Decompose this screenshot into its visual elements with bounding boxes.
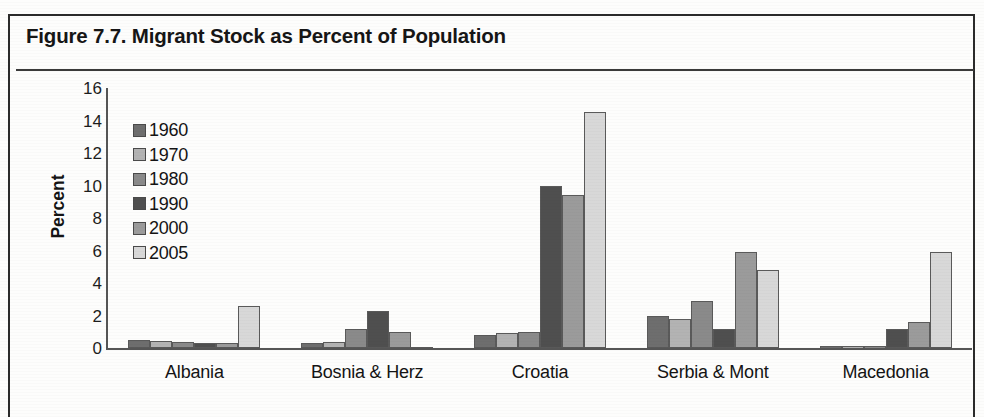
chart-plot-area: Percent 1614121086420 196019701980199020… (0, 0, 984, 417)
bar-2005-serbia-mont (757, 270, 779, 348)
y-axis-tick-8: 8 (68, 210, 102, 227)
y-axis-tick-16: 16 (68, 80, 102, 97)
bar-2005-croatia (584, 112, 606, 348)
bar-1980-macedonia (864, 346, 886, 348)
x-axis-label-macedonia: Macedonia (799, 362, 972, 383)
y-axis-tick-4: 4 (68, 275, 102, 292)
bar-2000-albania (216, 343, 238, 348)
y-axis-tick-12: 12 (68, 145, 102, 162)
x-axis-category-labels: AlbaniaBosnia & HerzCroatiaSerbia & Mont… (108, 362, 972, 392)
bar-group-serbia-mont (647, 88, 779, 348)
bar-group-bosnia-herz (301, 88, 433, 348)
bar-2000-bosnia-herz (389, 332, 411, 348)
x-axis-line (106, 348, 972, 350)
bar-1980-bosnia-herz (345, 329, 367, 349)
bar-1970-albania (150, 341, 172, 348)
bar-1980-albania (172, 342, 194, 348)
bar-2000-croatia (562, 195, 584, 348)
bar-2005-macedonia (930, 252, 952, 348)
bar-1980-croatia (518, 332, 540, 348)
bar-1960-croatia (474, 335, 496, 348)
bar-1990-croatia (540, 186, 562, 349)
bar-1990-bosnia-herz (367, 311, 389, 348)
bar-group-croatia (474, 88, 606, 348)
bar-1970-croatia (496, 333, 518, 348)
bar-2005-albania (238, 306, 260, 348)
bar-1970-macedonia (842, 346, 864, 348)
y-axis-tick-2: 2 (68, 308, 102, 325)
bar-group-macedonia (820, 88, 952, 348)
bar-1960-macedonia (820, 346, 842, 348)
bar-2000-macedonia (908, 322, 930, 348)
bar-2000-serbia-mont (735, 252, 757, 348)
bar-1970-serbia-mont (669, 319, 691, 348)
bar-2005-bosnia-herz (411, 347, 433, 349)
figure-container: Figure 7.7. Migrant Stock as Percent of … (0, 0, 984, 417)
x-axis-label-serbia-mont: Serbia & Mont (626, 362, 799, 383)
x-axis-label-croatia: Croatia (454, 362, 627, 383)
x-axis-label-bosnia-herz: Bosnia & Herz (281, 362, 454, 383)
bar-1960-bosnia-herz (301, 343, 323, 348)
bar-1990-macedonia (886, 329, 908, 349)
bar-1970-bosnia-herz (323, 342, 345, 348)
y-axis-tick-0: 0 (68, 340, 102, 357)
y-axis-tick-14: 14 (68, 113, 102, 130)
y-axis-tick-10: 10 (68, 178, 102, 195)
bar-1990-serbia-mont (713, 329, 735, 349)
bar-group-albania (128, 88, 260, 348)
y-axis-tick-6: 6 (68, 243, 102, 260)
bar-1980-serbia-mont (691, 301, 713, 348)
y-axis-tick-labels: 1614121086420 (58, 0, 102, 417)
bar-1990-albania (194, 343, 216, 348)
bar-1960-serbia-mont (647, 316, 669, 349)
bar-groups (108, 88, 972, 348)
bar-1960-albania (128, 340, 150, 348)
x-axis-label-albania: Albania (108, 362, 281, 383)
